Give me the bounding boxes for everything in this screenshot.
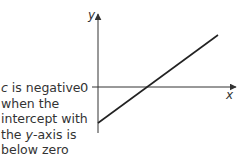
graph-line [98,35,218,123]
caption-line-3: intercept with [1,111,88,127]
x-axis-label: x [225,88,234,102]
caption-line-2: when the [1,96,88,112]
caption-line-4: the y-axis is [1,127,88,143]
y-axis-label: y [87,8,96,22]
caption-line-1: c is negative [1,80,88,96]
caption: c is negative when the intercept with th… [1,80,88,155]
caption-line-5: below zero [1,142,88,155]
